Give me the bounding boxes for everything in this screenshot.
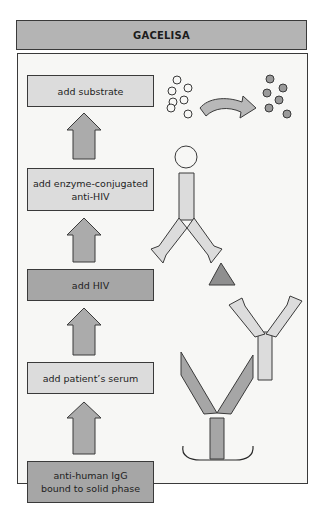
step-label-line2: bound to solid phase — [41, 482, 140, 495]
step-add-substrate: add substrate — [27, 75, 154, 107]
step-label: add substrate — [58, 85, 124, 98]
step-label-line2: anti-HIV — [71, 190, 109, 203]
step-add-hiv: add HIV — [27, 269, 154, 301]
step-label-line1: add enzyme-conjugated — [33, 177, 148, 190]
diagram-title: GACELISA — [16, 20, 307, 50]
step-label: add patient’s serum — [43, 372, 139, 385]
step-anti-human-igg: anti-human IgG bound to solid phase — [27, 461, 154, 503]
step-label-line1: anti-human IgG — [54, 469, 128, 482]
step-label: add HIV — [72, 279, 109, 292]
step-add-patients-serum: add patient’s serum — [27, 362, 154, 394]
step-add-enzyme-conjugated-anti-hiv: add enzyme-conjugated anti-HIV — [27, 168, 154, 211]
